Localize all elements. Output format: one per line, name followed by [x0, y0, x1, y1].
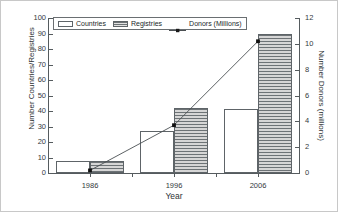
- y-axis-right-title: Number Donors (millions): [317, 18, 326, 173]
- donors-marker-1986: [88, 169, 92, 173]
- x-axis-title: Year: [48, 191, 300, 201]
- donors-marker-2006: [256, 39, 260, 43]
- plot-area: 0102030405060708090100 024681012 1986199…: [48, 18, 300, 173]
- x-tick: [132, 173, 133, 177]
- y-left-tick-label: 0: [22, 169, 46, 177]
- x-tick-label: 2006: [238, 181, 278, 190]
- chart-figure: Countries Registries Donors (Millions) 0…: [0, 0, 338, 212]
- y-left-tick: [49, 173, 53, 174]
- x-tick: [216, 173, 217, 177]
- x-tick-label: 1986: [70, 181, 110, 190]
- donors-line-path: [90, 41, 258, 170]
- x-tick: [90, 173, 91, 177]
- x-tick: [174, 173, 175, 177]
- x-tick: [258, 173, 259, 177]
- x-tick-label: 1996: [154, 181, 194, 190]
- donors-line-series: [48, 18, 300, 173]
- donors-marker-1996: [172, 123, 176, 127]
- y-axis-left-title: Number Countries/Registries: [0, 0, 13, 1]
- y-right-tick: [295, 173, 299, 174]
